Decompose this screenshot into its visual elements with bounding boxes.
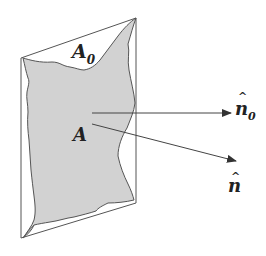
flux-area-diagram: A0 A ^ n0 ^ n <box>0 0 266 256</box>
label-a0: A0 <box>70 40 96 67</box>
label-n0: n0 <box>235 98 256 123</box>
label-a: A <box>71 124 87 145</box>
label-n: n <box>228 175 241 196</box>
